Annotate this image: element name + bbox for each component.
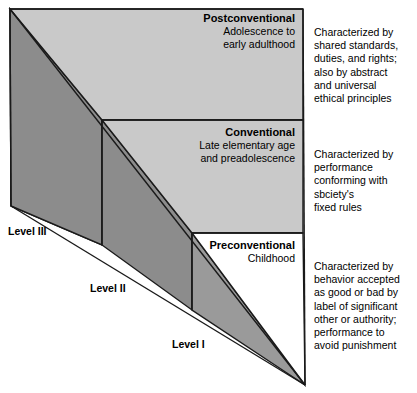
description-line: performance bbox=[314, 161, 417, 174]
level-label-one: Level I bbox=[172, 338, 205, 350]
level-label-three: Level III bbox=[8, 225, 47, 237]
stage-conventional-labels: Conventional Late elementary age and pre… bbox=[110, 126, 295, 164]
level-label-two: Level II bbox=[90, 282, 126, 294]
description-line: performance to bbox=[314, 326, 417, 339]
description-line: Characterized by bbox=[314, 26, 417, 39]
description-line: label of significant bbox=[314, 300, 417, 313]
description-line: Characterized by bbox=[314, 148, 417, 161]
stage-postconventional-description: Characterized by shared standards, dutie… bbox=[314, 26, 417, 105]
stage-preconventional-age-line-1: Childhood bbox=[120, 252, 295, 265]
stage-conventional-age-line-1: Late elementary age bbox=[110, 139, 295, 152]
stage-conventional-title: Conventional bbox=[110, 126, 295, 139]
stage-postconventional-age-line-1: Adolescence to bbox=[120, 25, 295, 38]
description-line: shared standards, bbox=[314, 39, 417, 52]
description-line: other or authority; bbox=[314, 313, 417, 326]
description-line: and universal bbox=[314, 79, 417, 92]
description-line: fixed rules bbox=[314, 201, 417, 214]
description-line: ethical principles bbox=[314, 92, 417, 105]
description-line: sbciety's bbox=[314, 188, 417, 201]
stage-conventional-description: Characterized by performance conforming … bbox=[314, 148, 417, 214]
description-line: also by abstract bbox=[314, 66, 417, 79]
description-line: conforming with bbox=[314, 174, 417, 187]
stage-preconventional-labels: Preconventional Childhood bbox=[120, 239, 295, 265]
left-edge bbox=[10, 9, 11, 206]
stage-postconventional-labels: Postconventional Adolescence to early ad… bbox=[120, 12, 295, 50]
description-line: as good or bad by bbox=[314, 286, 417, 299]
description-line: avoid punishment bbox=[314, 339, 417, 352]
stage-conventional-age-line-2: and preadolescence bbox=[110, 152, 295, 165]
description-line: behavior accepted bbox=[314, 273, 417, 286]
stage-preconventional-description: Characterized by behavior accepted as go… bbox=[314, 260, 417, 352]
description-line: duties, and rights; bbox=[314, 52, 417, 65]
stage-postconventional-age-line-2: early adulthood bbox=[120, 38, 295, 51]
kohlberg-moral-development-diagram: Postconventional Adolescence to early ad… bbox=[0, 0, 417, 393]
stage-postconventional-title: Postconventional bbox=[120, 12, 295, 25]
description-line: Characterized by bbox=[314, 260, 417, 273]
stage-preconventional-title: Preconventional bbox=[120, 239, 295, 252]
